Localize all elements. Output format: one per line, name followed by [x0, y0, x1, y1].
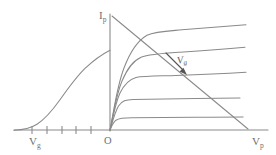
vg-annotation-label: Vg [176, 53, 187, 65]
plate-curve-1 [110, 25, 246, 130]
y-axis-label: Ip [99, 10, 106, 21]
plate-curve-3 [110, 72, 246, 130]
load-line [112, 16, 248, 129]
transfer-characteristic-curve [14, 50, 110, 130]
plot-canvas [0, 0, 276, 155]
x-axis-label-right: Vp [252, 136, 264, 147]
plate-curve-4 [110, 98, 240, 130]
plate-curve-5 [110, 117, 243, 130]
x-axis-label-left: Vg [29, 136, 41, 147]
origin-label: O [104, 136, 112, 147]
vacuum-tube-characteristic-figure: Ip Vg Vp O Vg [0, 0, 276, 155]
